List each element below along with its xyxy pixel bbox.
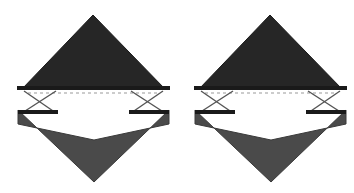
right-truss-figure bbox=[177, 0, 354, 193]
upper-chord-bar bbox=[194, 86, 347, 90]
lower-chord-bar-right bbox=[129, 110, 169, 114]
lower-chord-bar-left bbox=[195, 110, 235, 114]
left-truss-figure bbox=[0, 0, 177, 193]
lower-chord-bar-right bbox=[306, 110, 346, 114]
diagram-canvas bbox=[0, 0, 354, 193]
lower-chord-bar-left bbox=[18, 110, 58, 114]
upper-dark-triangle bbox=[199, 15, 342, 89]
lower-gray-chevron bbox=[18, 110, 169, 182]
upper-chord-bar bbox=[17, 86, 170, 90]
upper-dark-triangle bbox=[22, 15, 165, 89]
lower-gray-chevron bbox=[195, 110, 346, 182]
